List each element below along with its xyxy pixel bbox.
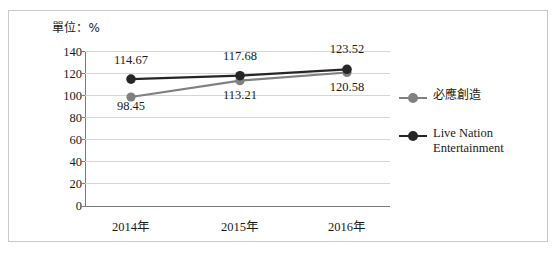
- value-label-bing-2014: 98.45: [103, 99, 159, 114]
- legend-label-bing: 必應創造: [433, 88, 544, 103]
- x-tick-label-2014: 2014年: [76, 216, 186, 235]
- data-point-live-nation-2016: [342, 65, 352, 75]
- series-plot: [85, 51, 390, 207]
- data-point-live-nation-2014: [126, 74, 136, 84]
- y-tick-label-140: 140: [48, 46, 82, 59]
- value-label-bing-2015: 113.21: [212, 88, 268, 103]
- y-tick-label-100: 100: [48, 90, 82, 103]
- y-tick-label-120: 120: [48, 68, 82, 81]
- legend-item-live-nation[interactable]: Live Nation Entertainment: [399, 126, 544, 156]
- legend-marker-bing-icon: [399, 92, 427, 104]
- value-label-live-nation-2015: 117.68: [212, 49, 268, 64]
- chart-legend: 必應創造 Live Nation Entertainment: [399, 88, 544, 174]
- y-tick-label-60: 60: [48, 134, 82, 147]
- x-tick-label-2016: 2016年: [292, 216, 402, 235]
- value-label-live-nation-2014: 114.67: [103, 53, 159, 68]
- x-tick-label-2015: 2015年: [185, 216, 295, 235]
- value-label-bing-2016: 120.58: [319, 80, 375, 95]
- data-point-live-nation-2015: [235, 71, 245, 81]
- y-tick-label-20: 20: [48, 178, 82, 191]
- legend-marker-live-nation-icon: [399, 130, 427, 142]
- y-tick-label-40: 40: [48, 156, 82, 169]
- legend-label-live-nation: Live Nation Entertainment: [433, 126, 544, 156]
- unit-label: 單位：%: [52, 18, 100, 35]
- y-tick-label-80: 80: [48, 112, 82, 125]
- legend-item-bing[interactable]: 必應創造: [399, 88, 544, 108]
- y-tick-label-0: 0: [48, 200, 82, 213]
- value-label-live-nation-2016: 123.52: [319, 42, 375, 57]
- chart-figure: 單位：% 140 120 100 80 60 40 20 0: [0, 0, 560, 254]
